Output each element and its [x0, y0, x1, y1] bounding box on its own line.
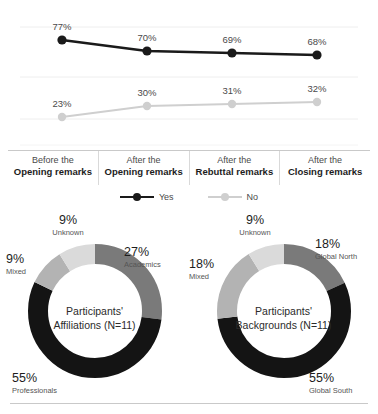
donut-label-global-south-name: Global South [309, 387, 352, 395]
donut-backgrounds: Participants' Backgrounds (N=11) 18% Glo… [189, 208, 378, 404]
legend-label-no: No [247, 192, 259, 202]
donut-label-mixed-name: Mixed [6, 268, 26, 276]
donut-label-mixed-pct: 18% [189, 258, 214, 272]
donut-label-mixed: 18% Mixed [189, 258, 214, 281]
data-point-no-3 [313, 98, 321, 106]
donut-label-unknown-pct: 9% [40, 214, 96, 228]
category-label-top-2: After the [217, 155, 251, 166]
data-point-no-1 [143, 102, 151, 110]
data-point-no-0 [58, 113, 66, 121]
donut-label-unknown: 9% Unknown [40, 214, 96, 237]
category-label-bottom-2: Rebuttal remarks [196, 166, 274, 178]
donut-label-academics: 27% Academics [124, 246, 161, 269]
donut-affiliations: Participants' Affiliations (N=11) 27% Ac… [0, 208, 189, 404]
legend-item-no: No [208, 192, 259, 202]
category-label-bottom-3: Closing remarks [288, 166, 362, 178]
line-chart: 77% 70% 69% 68% 23% 30% 31% 32% [0, 0, 378, 148]
line-chart-svg: 77% 70% 69% 68% 23% 30% 31% 32% [0, 0, 378, 148]
category-label-bottom-0: Opening remarks [14, 166, 92, 178]
category-label-bottom-1: Opening remarks [105, 166, 183, 178]
data-label-yes-2: 69% [222, 34, 242, 45]
donut-label-professionals-pct: 55% [12, 372, 57, 386]
series-yes [57, 35, 321, 59]
data-point-yes-2 [227, 48, 236, 57]
donut-label-professionals-name: Professionals [12, 387, 57, 395]
data-point-yes-1 [142, 46, 151, 55]
donut-label-global-north-pct: 18% [315, 238, 357, 252]
donut-label-academics-name: Academics [124, 261, 161, 269]
legend-marker-yes-icon [120, 192, 154, 202]
donut-label-global-north: 18% Global North [315, 238, 357, 261]
data-point-no-2 [228, 100, 236, 108]
category-cell-3: After the Closing remarks [280, 151, 370, 185]
donut-label-mixed-name: Mixed [189, 273, 214, 281]
donut-label-professionals: 55% Professionals [12, 372, 57, 395]
category-cell-2: After the Rebuttal remarks [190, 151, 281, 185]
category-label-top-3: After the [308, 155, 342, 166]
donut-charts: Participants' Affiliations (N=11) 27% Ac… [0, 208, 378, 404]
data-label-no-2: 31% [222, 85, 242, 96]
figure-panel: 77% 70% 69% 68% 23% 30% 31% 32% Before t… [0, 0, 378, 414]
donut-label-academics-pct: 27% [124, 246, 161, 260]
donut-label-global-south-pct: 55% [309, 372, 352, 386]
category-cell-1: After the Opening remarks [99, 151, 190, 185]
footer-divider [10, 403, 368, 404]
category-label-top-1: After the [127, 155, 161, 166]
category-axis: Before the Opening remarks After the Ope… [8, 150, 370, 185]
donut-label-unknown-pct: 9% [225, 214, 285, 228]
series-no [58, 98, 321, 121]
data-point-yes-3 [312, 50, 321, 59]
legend-item-yes: Yes [120, 192, 174, 202]
donut-label-unknown: 9% Unknown [225, 214, 285, 237]
data-label-yes-3: 68% [307, 36, 327, 47]
data-label-no-0: 23% [52, 98, 72, 109]
category-label-top-0: Before the [32, 155, 74, 166]
data-label-yes-1: 70% [137, 32, 157, 43]
donut-label-global-south: 55% Global South [309, 372, 352, 395]
donut-label-mixed: 9% Mixed [6, 253, 26, 276]
legend: Yes No [0, 188, 378, 206]
donut-label-global-north-name: Global North [315, 253, 357, 261]
donut-label-unknown-name: Unknown [40, 229, 96, 237]
donut-label-unknown-name: Unknown [225, 229, 285, 237]
legend-label-yes: Yes [159, 192, 174, 202]
data-point-yes-0 [57, 35, 66, 44]
data-label-no-1: 30% [137, 87, 157, 98]
donut-label-mixed-pct: 9% [6, 253, 26, 267]
legend-marker-no-icon [208, 192, 242, 202]
category-cell-0: Before the Opening remarks [8, 151, 99, 185]
data-label-yes-0: 77% [52, 21, 72, 32]
data-label-no-3: 32% [307, 83, 327, 94]
